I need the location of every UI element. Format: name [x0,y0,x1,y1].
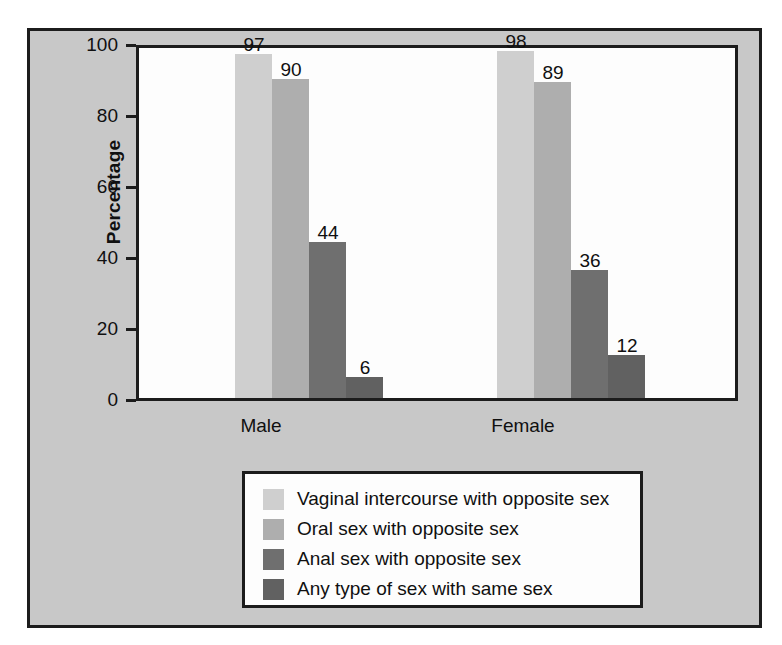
y-tick-label-80: 80 [18,107,118,125]
legend-label-anal: Anal sex with opposite sex [297,548,521,570]
legend: Vaginal intercourse with opposite sex Or… [242,471,643,608]
legend-item: Vaginal intercourse with opposite sex [263,485,640,513]
bar-value-male-oral: 90 [266,59,316,81]
y-tick-mark-20 [126,328,136,331]
x-axis-label-male: Male [206,415,316,437]
figure-frame: Percentage 100 80 60 40 20 0 97 90 44 6 … [27,28,762,628]
bar-male-vaginal [235,54,272,398]
bar-female-oral [534,82,571,398]
y-tick-mark-0 [126,399,136,402]
y-tick-label-100: 100 [18,36,118,54]
bar-value-female-anal: 36 [565,250,615,272]
bar-female-vaginal [497,51,534,398]
y-tick-label-60: 60 [18,178,118,196]
y-tick-label-0: 0 [18,391,118,409]
bar-value-male-samesex: 6 [340,357,390,379]
legend-item: Oral sex with opposite sex [263,515,640,543]
x-axis-label-female: Female [468,415,578,437]
legend-swatch-anal [263,549,284,570]
legend-item: Anal sex with opposite sex [263,545,640,573]
y-tick-mark-40 [126,257,136,260]
y-tick-mark-100 [126,44,136,47]
legend-label-oral: Oral sex with opposite sex [297,518,519,540]
legend-swatch-samesex [263,579,284,600]
bar-value-female-samesex: 12 [602,335,652,357]
y-tick-mark-60 [126,186,136,189]
bar-value-female-vaginal: 98 [491,31,541,53]
legend-swatch-oral [263,519,284,540]
legend-swatch-vaginal [263,489,284,510]
y-tick-label-20: 20 [18,320,118,338]
y-tick-mark-80 [126,115,136,118]
legend-label-vaginal: Vaginal intercourse with opposite sex [297,488,609,510]
y-tick-label-40: 40 [18,249,118,267]
bar-female-anal [571,270,608,398]
plot-area: 97 90 44 6 98 89 36 12 [136,45,738,401]
bar-male-samesex [346,377,383,398]
legend-label-samesex: Any type of sex with same sex [297,578,553,600]
bar-female-samesex [608,355,645,398]
bar-value-male-vaginal: 97 [229,34,279,56]
legend-item: Any type of sex with same sex [263,575,640,603]
bar-value-female-oral: 89 [528,62,578,84]
bar-value-male-anal: 44 [303,222,353,244]
